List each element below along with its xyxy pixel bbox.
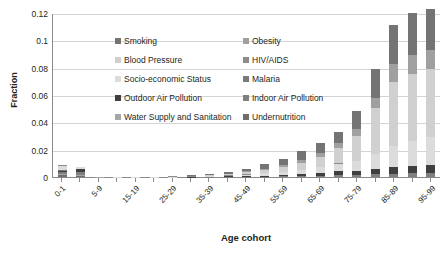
legend-swatch-icon <box>115 38 121 44</box>
legend-label: Undernutrition <box>252 112 305 122</box>
y-tick-label: 0.12 <box>12 10 48 18</box>
x-tick-label: 0-1 <box>53 184 68 199</box>
stacked-bar <box>389 25 398 177</box>
bar-segment <box>334 148 343 163</box>
legend: SmokingObesityBlood PressureHIV/AIDSSoci… <box>115 31 330 126</box>
bar-segment <box>389 82 398 146</box>
bar-column <box>348 14 366 177</box>
stacked-bar <box>205 174 214 177</box>
bar-column <box>366 14 384 177</box>
legend-swatch-icon <box>115 57 121 63</box>
y-tick-label: 0.08 <box>12 65 48 73</box>
y-tick-label: 0.04 <box>12 119 48 127</box>
bar-segment <box>426 173 435 177</box>
bar-segment <box>389 174 398 177</box>
bar-segment <box>408 173 417 177</box>
legend-swatch-icon <box>115 76 121 82</box>
y-tick-label: 0.06 <box>12 92 48 100</box>
legend-item: HIV/AIDS <box>243 50 330 69</box>
y-tick-label: 0.1 <box>12 37 48 45</box>
legend-label: Indoor Air Pollution <box>252 93 323 103</box>
legend-item: Obesity <box>243 31 330 50</box>
bar-column <box>53 14 71 177</box>
stacked-bar <box>316 143 325 177</box>
bar-segment <box>334 175 343 177</box>
bar-segment <box>426 9 435 50</box>
stacked-bar <box>371 69 380 177</box>
stacked-bar <box>95 177 104 178</box>
legend-label: Water Supply and Sanitation <box>124 112 231 122</box>
bar-segment <box>426 165 435 173</box>
legend-item: Socio-economic Status <box>115 69 243 88</box>
bar-segment <box>389 25 398 65</box>
legend-label: Smoking <box>124 36 157 46</box>
legend-swatch-icon <box>243 57 249 63</box>
legend-swatch-icon <box>243 95 249 101</box>
stacked-bar <box>279 159 288 177</box>
stacked-bar <box>297 151 306 177</box>
bar-segment <box>352 136 361 161</box>
bar-segment <box>426 69 435 137</box>
bar-segment <box>297 151 306 160</box>
bar-segment <box>371 69 380 98</box>
bar-column <box>90 14 108 177</box>
plot-area: SmokingObesityBlood PressureHIV/AIDSSoci… <box>52 14 440 178</box>
legend-swatch-icon <box>115 114 121 120</box>
legend-item: Outdoor Air Pollution <box>115 88 243 107</box>
bar-segment <box>352 161 361 171</box>
bar-segment <box>316 176 325 177</box>
legend-item: Malaria <box>243 69 330 88</box>
bar-segment <box>371 98 380 108</box>
legend-item: Blood Pressure <box>115 50 243 69</box>
legend-label: Socio-economic Status <box>124 74 211 84</box>
legend-label: Malaria <box>252 74 280 84</box>
legend-item: Water Supply and Sanitation <box>115 107 243 126</box>
legend-item: Smoking <box>115 31 243 50</box>
stacked-bar <box>187 175 196 177</box>
y-tick-label: 0.02 <box>12 147 48 155</box>
stacked-bar <box>224 172 233 177</box>
bar-segment <box>371 174 380 177</box>
bar-segment <box>371 108 380 153</box>
legend-swatch-icon <box>243 114 249 120</box>
legend-item: Undernutrition <box>243 107 330 126</box>
bar-segment <box>316 143 325 153</box>
legend-swatch-icon <box>243 38 249 44</box>
stacked-bar <box>260 164 269 177</box>
bar-segment <box>408 55 417 74</box>
bar-column <box>329 14 347 177</box>
stacked-bar-chart: Fraction 00.020.040.060.080.10.12 Smokin… <box>0 0 445 255</box>
bar-segment <box>58 175 67 177</box>
legend-swatch-icon <box>243 76 249 82</box>
bar-segment <box>426 137 435 164</box>
bar-segment <box>352 111 361 129</box>
bar-segment <box>352 129 361 137</box>
y-axis-tick-labels: 00.020.040.060.080.10.12 <box>12 10 48 178</box>
x-tick-label: 5-9 <box>90 184 105 199</box>
bar-segment <box>279 176 288 177</box>
bar-segment <box>408 166 417 174</box>
bar-column <box>385 14 403 177</box>
stacked-bar <box>242 169 251 177</box>
bar-segment <box>389 167 398 174</box>
stacked-bar <box>426 9 435 177</box>
bar-segment <box>408 13 417 55</box>
y-tick-label: 0 <box>12 174 48 182</box>
bar-segment <box>297 176 306 177</box>
bar-segment <box>352 175 361 177</box>
legend-item: Indoor Air Pollution <box>243 88 330 107</box>
stacked-bar <box>58 165 67 177</box>
bar-column <box>403 14 421 177</box>
bar-column <box>421 14 439 177</box>
stacked-bar <box>168 176 177 177</box>
stacked-bar <box>352 111 361 177</box>
x-axis-tick-labels: 0-15-915-1925-2935-3945-4955-5965-6975-7… <box>52 182 440 222</box>
stacked-bar <box>76 167 85 177</box>
legend-label: Outdoor Air Pollution <box>124 93 202 103</box>
bar-segment <box>426 50 435 69</box>
legend-swatch-icon <box>115 95 121 101</box>
bar-segment <box>334 164 343 172</box>
bar-segment <box>389 64 398 82</box>
legend-label: Blood Pressure <box>124 55 182 65</box>
bar-segment <box>408 74 417 141</box>
